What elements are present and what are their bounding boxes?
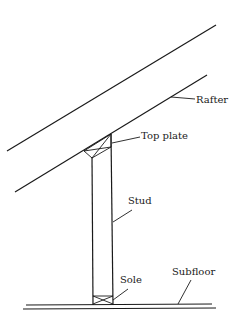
subfloor-top-edge [26,304,212,305]
subfloor [23,304,216,309]
stud-leader [113,210,132,222]
top-plate-leader [112,137,140,143]
stud-right-edge [111,134,113,305]
sole-label: Sole [120,274,142,285]
rafter-leader [171,97,195,99]
stud-label: Stud [128,195,152,206]
stud [92,134,113,305]
top-plate-outline [84,134,111,158]
sole [93,296,113,304]
rafter-label: Rafter [196,94,228,105]
top-plate [84,134,111,158]
subfloor-bottom-edge [23,308,216,309]
top-plate-label: Top plate [141,130,188,141]
sole-leader [113,289,128,300]
top-plate-cross-b [92,134,111,158]
framing-diagram: Rafter Top plate Stud Sole Subfloor [0,0,237,332]
stud-left-edge [92,157,93,305]
subfloor-label: Subfloor [172,266,215,277]
subfloor-leader [178,280,191,304]
